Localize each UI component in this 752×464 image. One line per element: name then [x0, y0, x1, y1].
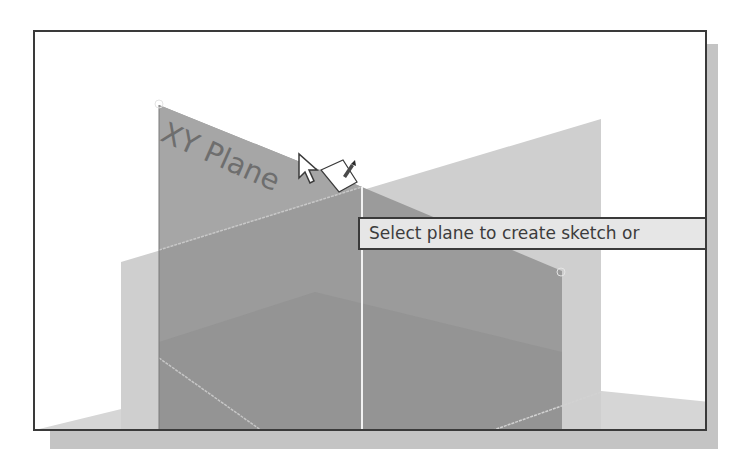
graphics-viewport[interactable]: XY Plane Select plane to create sketch o…	[33, 30, 707, 431]
selection-tooltip: Select plane to create sketch or	[358, 217, 707, 250]
tooltip-text: Select plane to create sketch or	[369, 223, 639, 243]
